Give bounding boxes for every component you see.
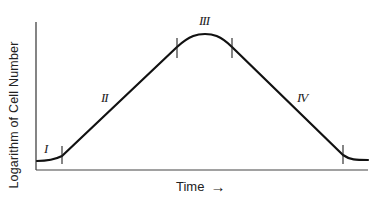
growth-curve-figure: Logarithm of Cell Number Time → I II III… (0, 0, 384, 201)
phase-label-lag: I (44, 141, 47, 157)
y-axis-label: Logarithm of Cell Number (4, 40, 24, 190)
x-axis-label-text: Time (176, 179, 204, 194)
x-axis-label: Time → (176, 178, 225, 195)
y-axis-label-text: Logarithm of Cell Number (7, 41, 21, 188)
right-arrow-icon: → (210, 178, 225, 195)
growth-curve-plot (0, 0, 384, 201)
growth-curve-line (37, 34, 368, 161)
phase-label-stationary: III (199, 13, 209, 29)
phase-label-exponential: II (101, 90, 108, 106)
phase-label-death: IV (297, 90, 307, 106)
